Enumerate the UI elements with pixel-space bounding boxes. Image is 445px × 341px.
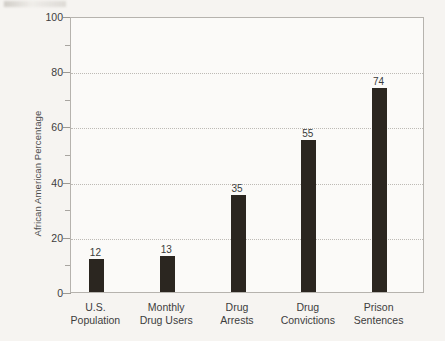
bar-value-label: 55 bbox=[288, 128, 328, 139]
gridline bbox=[71, 239, 423, 240]
gridline bbox=[71, 73, 423, 74]
y-axis-tick-label: 40 bbox=[37, 177, 63, 189]
bar bbox=[89, 259, 104, 292]
bar bbox=[372, 88, 387, 292]
x-axis-tick-label: Prison Sentences bbox=[333, 301, 425, 327]
bar-value-label: 13 bbox=[146, 244, 186, 255]
bar bbox=[231, 195, 246, 292]
plot-area bbox=[70, 17, 424, 293]
y-axis-tick-label: 20 bbox=[37, 232, 63, 244]
bar-value-label: 35 bbox=[217, 183, 257, 194]
bar-value-label: 74 bbox=[359, 76, 399, 87]
y-axis-tick-label: 0 bbox=[37, 287, 63, 299]
scan-artifact-smudge bbox=[4, 1, 66, 7]
bar-value-label: 12 bbox=[75, 247, 115, 258]
y-axis-tick bbox=[63, 293, 71, 294]
bar bbox=[160, 256, 175, 292]
y-axis-tick-label: 100 bbox=[37, 11, 63, 23]
y-axis-tick-label: 80 bbox=[37, 66, 63, 78]
bar-chart-figure: African American Percentage 020406080100… bbox=[0, 0, 445, 341]
bar bbox=[301, 140, 316, 292]
y-axis-tick-label: 60 bbox=[37, 121, 63, 133]
gridline bbox=[71, 128, 423, 129]
